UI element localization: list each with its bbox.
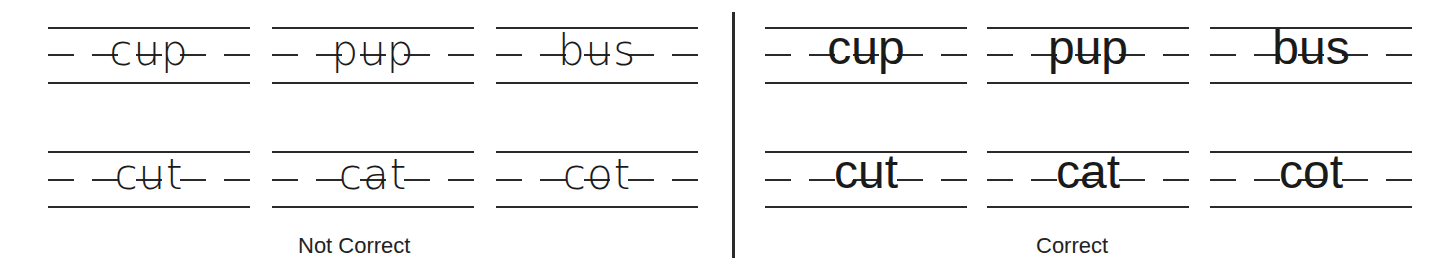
writing-line-cell: bus	[496, 20, 698, 84]
panel-label-not-correct: Not Correct	[298, 233, 410, 259]
writing-line-cell: cot	[1210, 144, 1412, 208]
writing-line-cell: pup	[987, 20, 1189, 84]
sample-word: cut	[48, 154, 250, 196]
panel-divider	[732, 12, 735, 258]
writing-line-cell: pup	[272, 20, 474, 84]
panel-label-correct: Correct	[1036, 233, 1108, 259]
sample-word: cat	[272, 154, 474, 196]
sample-word: cat	[987, 148, 1189, 196]
sample-word: bus	[1210, 24, 1412, 72]
sample-word: cup	[765, 24, 967, 72]
sample-word: cot	[1210, 148, 1412, 196]
sample-word: cup	[48, 30, 250, 72]
sample-word: pup	[272, 30, 474, 72]
writing-line-cell: cut	[765, 144, 967, 208]
writing-line-cell: cat	[272, 144, 474, 208]
sample-word: cut	[765, 148, 967, 196]
sample-word: bus	[496, 30, 698, 72]
sample-word: cot	[496, 154, 698, 196]
writing-line-cell: cut	[48, 144, 250, 208]
writing-line-cell: cat	[987, 144, 1189, 208]
writing-line-cell: bus	[1210, 20, 1412, 84]
writing-line-cell: cup	[48, 20, 250, 84]
writing-line-cell: cot	[496, 144, 698, 208]
writing-line-cell: cup	[765, 20, 967, 84]
sample-word: pup	[987, 24, 1189, 72]
